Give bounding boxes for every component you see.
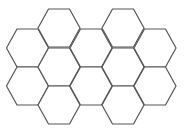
hexagon-grid bbox=[0, 0, 194, 137]
hexagon-diagram bbox=[0, 0, 194, 137]
